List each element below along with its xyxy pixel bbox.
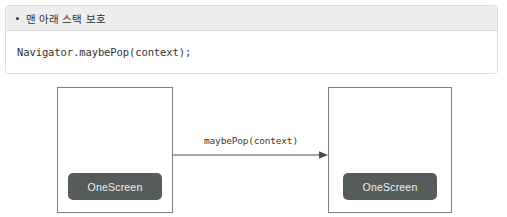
one-screen-button-right[interactable]: OneScreen (343, 173, 437, 200)
flow-diagram: OneScreen maybePop(context) OneScreen (0, 80, 507, 217)
note-panel-body: Navigator.maybePop(context); (6, 31, 497, 73)
one-screen-button-right-label: OneScreen (363, 181, 418, 193)
note-title: 맨 아래 스택 보호 (26, 11, 106, 26)
note-panel-header: 맨 아래 스택 보호 (6, 6, 497, 31)
code-snippet: Navigator.maybePop(context); (17, 46, 191, 58)
arrow-right-icon (173, 148, 329, 162)
screen-node-left: OneScreen (57, 87, 173, 213)
transition-arrow: maybePop(context) (173, 135, 329, 165)
transition-arrow-label: maybePop(context) (173, 135, 329, 146)
note-panel: 맨 아래 스택 보호 Navigator.maybePop(context); (5, 5, 498, 74)
one-screen-button-left[interactable]: OneScreen (68, 173, 162, 200)
bullet-dot-icon (16, 17, 19, 20)
one-screen-button-left-label: OneScreen (88, 181, 143, 193)
screen-node-right: OneScreen (328, 87, 452, 213)
